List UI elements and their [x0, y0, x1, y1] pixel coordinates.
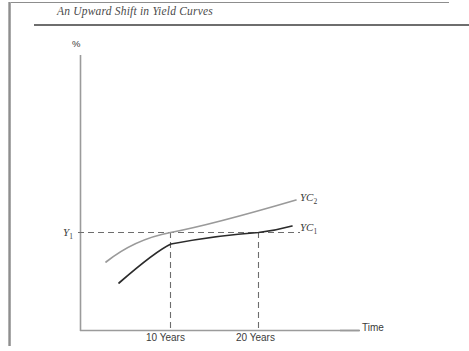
curve-label-yc2-subscript: 2 — [313, 197, 317, 206]
x-axis-title: Time — [362, 322, 384, 333]
curve-label-yc1-text: YC — [300, 221, 313, 233]
y-axis-title: % — [72, 38, 80, 49]
curve-label-yc1-subscript: 1 — [313, 227, 317, 236]
y1-marker-subscript: 1 — [69, 232, 73, 241]
curve-label-yc2-text: YC — [300, 191, 313, 203]
curve-yc1 — [119, 226, 292, 283]
x-tick-label-10-years: 10 Years — [146, 332, 185, 343]
y1-axis-marker: Y1 — [63, 226, 73, 241]
curve-label-yc2: YC2 — [300, 191, 317, 206]
curve-label-yc1: YC1 — [300, 221, 317, 236]
x-tick-label-20-years: 20 Years — [236, 332, 275, 343]
